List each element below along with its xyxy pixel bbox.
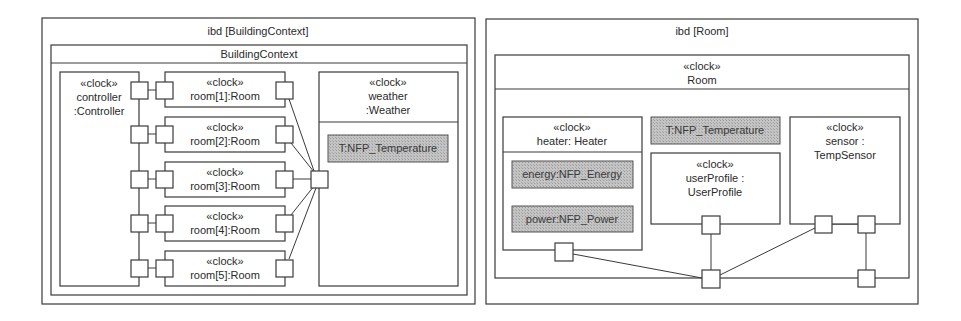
weather-port[interactable] [311,171,328,188]
frame-title: ibd [Room] [675,25,728,37]
port[interactable] [156,126,173,143]
room-name: room[4]:Room [190,224,260,236]
sensor-type: TempSensor [814,149,876,161]
room-stereotype: «clock» [206,121,243,133]
room-name: room[2]:Room [190,135,260,147]
room-part-4[interactable]: «clock» room[4]:Room [165,206,285,241]
room-part-2[interactable]: «clock» room[2]:Room [165,117,285,152]
weather-part[interactable]: «clock» weather :Weather T:NFP_Temperatu… [319,72,458,286]
port[interactable] [276,126,293,143]
room-stereotype: «clock» [206,255,243,267]
ibd-building-context: ibd [BuildingContext] BuildingContext «c… [42,18,475,304]
port[interactable] [156,82,173,99]
room-temperature-label: T:NFP_Temperature [666,124,764,136]
room-stereotype: «clock» [206,210,243,222]
heater-name: heater: Heater [537,135,608,147]
user-profile-type: UserProfile [688,186,742,198]
port[interactable] [276,260,293,277]
controller-type: :Controller [74,105,125,117]
heater-stereotype: «clock» [553,121,590,133]
controller-stereotype: «clock» [80,77,117,89]
port[interactable] [131,82,148,99]
port[interactable] [131,171,148,188]
weather-temperature-label: T:NFP_Temperature [339,142,437,154]
user-profile-stereotype: «clock» [696,158,733,170]
room-block-stereotype: «clock» [683,60,720,72]
room-stereotype: «clock» [206,76,243,88]
heater-part[interactable]: «clock» heater: Heater energy:NFP_Energy… [503,117,642,250]
heater-port[interactable] [555,243,573,261]
port[interactable] [156,260,173,277]
controller-part[interactable]: «clock» controller :Controller [60,72,139,286]
room-name: room[5]:Room [190,269,260,281]
weather-name: weather [367,90,407,102]
room-name: room[1]:Room [190,90,260,102]
room-stereotype: «clock» [206,166,243,178]
port[interactable] [276,171,293,188]
user-profile-name: userProfile : [686,172,745,184]
room-boundary-port-center[interactable] [702,270,720,288]
weather-type: :Weather [366,104,411,116]
sensor-port-left[interactable] [815,216,832,233]
block-name: BuildingContext [220,48,297,60]
diagram-canvas: ibd [BuildingContext] BuildingContext «c… [0,0,961,321]
power-property-label: power:NFP_Power [526,213,619,225]
sensor-port-right[interactable] [858,216,875,233]
weather-stereotype: «clock» [369,76,406,88]
room-block-name: Room [687,74,716,86]
controller-name: controller [76,91,122,103]
sensor-part[interactable]: «clock» sensor : TempSensor [790,117,900,224]
frame-title: ibd [BuildingContext] [208,25,309,37]
room-name: room[3]:Room [190,180,260,192]
user-profile-part[interactable]: «clock» userProfile : UserProfile [651,153,780,224]
port[interactable] [131,126,148,143]
room-part-1[interactable]: «clock» room[1]:Room [165,72,285,107]
port[interactable] [131,260,148,277]
port[interactable] [156,171,173,188]
room-part-5[interactable]: «clock» room[5]:Room [165,251,285,286]
sensor-name: sensor : [825,135,864,147]
sensor-stereotype: «clock» [826,121,863,133]
room-part-3[interactable]: «clock» room[3]:Room [165,162,285,197]
energy-property-label: energy:NFP_Energy [522,168,622,180]
port[interactable] [131,215,148,232]
port[interactable] [276,215,293,232]
room-boundary-port-right[interactable] [858,270,875,287]
port[interactable] [156,215,173,232]
ibd-room: ibd [Room] «clock» Room «clock» heater: … [486,19,918,304]
user-profile-port[interactable] [702,216,720,234]
port[interactable] [276,82,293,99]
